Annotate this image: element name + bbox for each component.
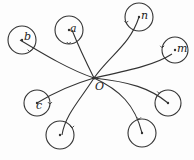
connector-curve	[20, 40, 94, 78]
node-dot	[141, 132, 143, 134]
node-label: c	[36, 99, 42, 112]
diagram-canvas: banmcO	[0, 0, 194, 160]
node-label: a	[70, 22, 77, 35]
node-dot	[59, 134, 61, 136]
node-label: b	[24, 30, 31, 43]
node-dot	[174, 49, 176, 51]
connector-curve	[62, 78, 94, 135]
connector-curve	[94, 78, 168, 103]
node-dot	[167, 102, 169, 104]
node-dot	[138, 16, 140, 18]
center-label: O	[95, 80, 104, 93]
arrow-icon	[28, 50, 32, 52]
radial-circles-diagram: banmcO	[0, 0, 194, 160]
connector-curve	[94, 54, 172, 78]
node-label: m	[177, 42, 187, 55]
node-label: n	[141, 9, 148, 22]
arrow-icon	[157, 91, 161, 93]
node-dot	[21, 39, 23, 41]
